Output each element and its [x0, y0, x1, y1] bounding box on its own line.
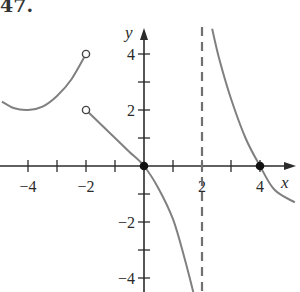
y-tick-label: 2 [127, 102, 135, 119]
middle-branch-curve [86, 110, 193, 292]
x-tick-label: −4 [19, 178, 36, 195]
x-tick-label: −2 [77, 178, 94, 195]
open-circle-endpoint [82, 106, 89, 113]
closed-dot-point [140, 162, 149, 171]
x-tick-label: 4 [256, 178, 264, 195]
y-tick-label: −2 [118, 214, 135, 231]
x-axis-label: x [280, 173, 289, 192]
y-axis-arrow-icon [140, 28, 148, 40]
x-axis-arrow-icon [284, 162, 296, 170]
closed-dot-point [256, 162, 265, 171]
function-graph: −4−224−4−224xy [0, 0, 300, 292]
left-branch-curve [2, 54, 86, 110]
y-tick-label: 4 [127, 46, 135, 63]
y-axis-label: y [123, 23, 133, 42]
y-tick-label: −4 [118, 270, 135, 287]
open-circle-endpoint [82, 50, 89, 57]
